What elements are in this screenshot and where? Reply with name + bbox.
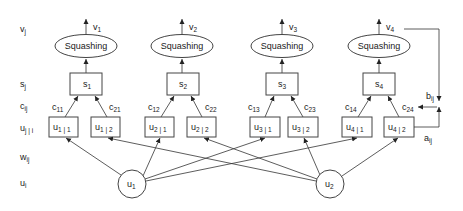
coupling-edge-c14 bbox=[358, 96, 371, 117]
label-c22: c22 bbox=[205, 102, 217, 113]
row-labels: vj sj cij uj | i wij ui bbox=[19, 24, 33, 189]
row-label-uhat: uj | i bbox=[20, 123, 33, 135]
capsule-4: v4 Squashing s4 c14 c24 u4 | 1 u4 | 2 bbox=[342, 19, 414, 137]
feedback-line-b bbox=[404, 29, 439, 101]
label-c13: c13 bbox=[248, 102, 260, 113]
squashing-label-2: Squashing bbox=[161, 41, 204, 51]
row-label-s: sj bbox=[20, 79, 26, 91]
label-c24: c24 bbox=[402, 102, 414, 113]
label-v1: v1 bbox=[93, 22, 102, 33]
edge-u2-to-u2-2 bbox=[204, 138, 317, 179]
edge-u2-to-u3-2 bbox=[304, 138, 320, 175]
label-c14: c14 bbox=[345, 102, 357, 113]
edge-u2-to-u4-2 bbox=[342, 138, 398, 176]
label-c11: c11 bbox=[52, 102, 64, 113]
weight-edges bbox=[66, 138, 398, 181]
row-label-u: ui bbox=[20, 178, 26, 189]
feedback-line-a bbox=[414, 107, 439, 127]
label-aij: aij bbox=[424, 133, 432, 145]
capsule-2: v2 Squashing s2 c12 c22 u2 | 1 u2 | 2 bbox=[145, 19, 217, 137]
coupling-edge-c21 bbox=[95, 96, 107, 117]
row-label-w: wij bbox=[19, 152, 29, 164]
coupling-edge-c24 bbox=[388, 96, 399, 117]
input-capsules: u1 u2 bbox=[118, 170, 344, 198]
capsule-1: v1 Squashing s1 c11 c21 u1 | 1 u1 | 2 bbox=[49, 19, 121, 137]
capsule-3: v3 Squashing s3 c13 c23 u3 | 1 u3 | 2 bbox=[248, 19, 318, 137]
label-v2: v2 bbox=[189, 22, 198, 33]
coupling-edge-c13 bbox=[265, 96, 274, 117]
coupling-edge-c23 bbox=[291, 96, 303, 117]
label-v4: v4 bbox=[386, 22, 395, 33]
edge-u1-to-u1-1 bbox=[66, 138, 121, 175]
coupling-edge-c11 bbox=[65, 96, 78, 117]
edge-u1-to-u3-1 bbox=[145, 138, 265, 179]
row-label-c: cij bbox=[20, 101, 27, 113]
coupling-edge-c12 bbox=[161, 96, 174, 117]
coupling-edge-c22 bbox=[191, 96, 202, 117]
squashing-label-4: Squashing bbox=[358, 41, 401, 51]
label-bij: bij bbox=[426, 91, 434, 103]
squashing-label-3: Squashing bbox=[261, 41, 304, 51]
label-c21: c21 bbox=[109, 102, 121, 113]
squashing-label-1: Squashing bbox=[65, 41, 108, 51]
label-c12: c12 bbox=[148, 102, 160, 113]
label-c23: c23 bbox=[304, 102, 316, 113]
row-label-v: vj bbox=[20, 24, 26, 36]
label-v3: v3 bbox=[289, 22, 298, 33]
capsule-routing-diagram: vj sj cij uj | i wij ui v1 Squashing s1 … bbox=[0, 0, 463, 211]
edge-u1-to-u2-1 bbox=[143, 138, 160, 176]
